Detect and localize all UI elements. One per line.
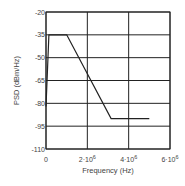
x-tick-label: 4·106 [120,154,137,163]
y-tick-label: -35 [35,31,45,38]
grid-lines [46,12,170,149]
data-series [46,35,149,119]
x-axis-label: Frequency (Hz) [82,166,134,175]
x-tick-label: 0 [44,156,48,163]
y-tick-label: -80 [35,100,45,107]
psd-chart: -20-35-50-65-80-95-110 02·1064·1066·106 … [0,0,185,186]
y-tick-label: -20 [35,9,45,16]
y-tick-label: -95 [35,123,45,130]
series-line [46,35,149,119]
x-axis-ticks: 02·1064·1066·106 [44,154,178,163]
y-axis-ticks: -20-35-50-65-80-95-110 [32,9,46,153]
y-tick-label: -110 [32,146,46,153]
x-tick-label: 6·106 [161,154,178,163]
y-tick-label: -65 [35,77,45,84]
x-tick-label: 2·106 [79,154,96,163]
y-axis-label: PSD (dBm/Hz) [12,55,21,105]
y-tick-label: -50 [35,54,45,61]
